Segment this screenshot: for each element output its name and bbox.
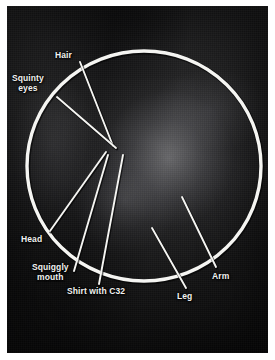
circled-region — [27, 51, 261, 281]
annotation-label-squiggly-mouth: Squiggly mouth — [32, 262, 69, 282]
annotation-label-squinty-eyes: Squinty eyes — [12, 73, 44, 93]
annotation-label-hair: Hair — [55, 50, 72, 60]
annotation-label-leg: Leg — [177, 291, 192, 301]
leader-line-arm — [182, 197, 216, 267]
annotation-label-shirt-with-c32: Shirt with C32 — [67, 286, 125, 296]
circle-highlight-group — [27, 51, 262, 282]
leader-line-squinty-eyes — [57, 97, 116, 148]
annotation-label-head: Head — [21, 234, 42, 244]
annotated-photo-figure: HairSquinty eyesHeadSquiggly mouthShirt … — [0, 0, 275, 360]
annotation-overlay — [0, 0, 275, 360]
leader-lines-group — [50, 62, 217, 289]
annotation-label-arm: Arm — [212, 271, 229, 281]
